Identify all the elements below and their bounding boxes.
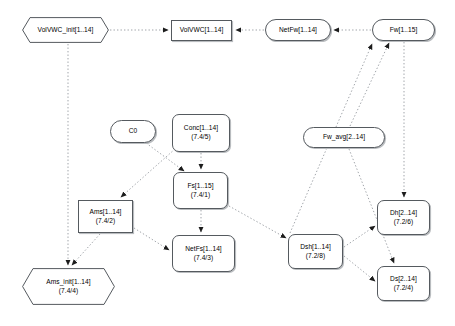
node-label: VolVWC[1..14] (180, 26, 224, 35)
node-label: Fw_avg[2..14] (323, 133, 365, 142)
node-label: Ams_init[1..14] (46, 278, 90, 287)
node-sublabel: (7.4/3) (194, 254, 213, 263)
node-label: Dsh[1..14] (300, 243, 331, 252)
node-sublabel: (7.4/4) (59, 287, 78, 296)
node-label: NetFw[1..14] (279, 26, 317, 35)
node-sublabel: (7.4/1) (191, 191, 210, 200)
node-label: NetFs[1..14] (185, 245, 222, 254)
node-label: VolVWC_init[1..14] (38, 26, 94, 35)
node-label: Fw[1..15] (390, 26, 418, 35)
node-label: Fs[1..15] (187, 182, 213, 191)
edge-dsh-to-dh (344, 226, 375, 247)
node-fw[interactable]: Fw[1..15] (372, 19, 435, 41)
node-dh[interactable]: Dh[2..14] (7.2/6) (377, 200, 430, 235)
node-sublabel: (7.4/2) (96, 217, 115, 226)
node-label: C0 (129, 127, 138, 136)
node-netfs[interactable]: NetFs[1..14] (7.4/3) (172, 235, 235, 272)
node-dsh[interactable]: Dsh[1..14] (7.2/8) (288, 234, 343, 269)
diagram-canvas: VolVWC_init[1..14] VolVWC[1..14] NetFw[1… (0, 0, 455, 326)
node-sublabel: (7.2/6) (394, 218, 413, 227)
node-conc[interactable]: Conc[1..14] (7.4/5) (172, 114, 230, 152)
node-sublabel: (7.2/4) (394, 284, 413, 293)
node-volvwc-init[interactable]: VolVWC_init[1..14] (22, 17, 109, 43)
node-netfw[interactable]: NetFw[1..14] (265, 19, 331, 41)
node-label: Conc[1..14] (184, 124, 218, 133)
node-ams[interactable]: Ams[1..14] (7.4/2) (78, 200, 133, 233)
node-fs[interactable]: Fs[1..15] (7.4/1) (173, 172, 228, 209)
node-label: Dh[2..14] (390, 209, 417, 218)
node-ds[interactable]: Ds[2..14] (7.2/4) (377, 266, 430, 301)
node-c0[interactable]: C0 (110, 120, 156, 143)
node-sublabel: (7.4/5) (191, 133, 210, 142)
edge-fs-to-dsh (229, 206, 286, 238)
edge-dsh-to-ds (344, 256, 375, 281)
edge-fw-avg-to-fw (350, 43, 389, 126)
edge-conc-to-ams (121, 149, 175, 197)
node-label: Ds[2..14] (390, 275, 417, 284)
node-ams-init[interactable]: Ams_init[1..14] (7.4/4) (22, 268, 115, 305)
node-label: Ams[1..14] (89, 208, 121, 217)
edge-ams-to-netfs (134, 228, 169, 250)
node-volvwc[interactable]: VolVWC[1..14] (171, 20, 232, 41)
node-fw-avg[interactable]: Fw_avg[2..14] (303, 127, 385, 148)
edge-ams-to-ams-init (72, 234, 100, 265)
node-sublabel: (7.2/8) (306, 252, 325, 261)
